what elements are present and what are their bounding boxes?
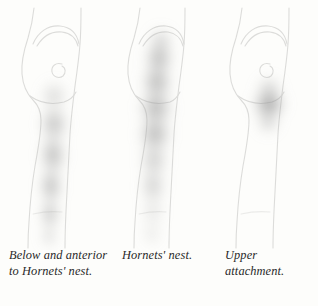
caption-row: Below and anterior to Hornets' nest. Hor… (0, 248, 318, 306)
figure-panel-1 (0, 0, 106, 250)
body-figure-1 (0, 0, 106, 250)
figure-board: Below and anterior to Hornets' nest. Hor… (0, 0, 318, 306)
figure-panel-3 (212, 0, 318, 250)
figure-panel-2 (106, 0, 212, 250)
caption-hornets-nest: Hornets' nest. (122, 248, 222, 264)
pain-shading-3 (250, 75, 288, 136)
caption-below-and-anterior: Below and anterior to Hornets' nest. (9, 248, 109, 279)
caption-upper-attachment: Upper attachment. (225, 248, 317, 279)
pain-shading-2 (138, 28, 174, 246)
body-figure-2 (106, 0, 212, 250)
body-figure-3 (212, 0, 318, 250)
